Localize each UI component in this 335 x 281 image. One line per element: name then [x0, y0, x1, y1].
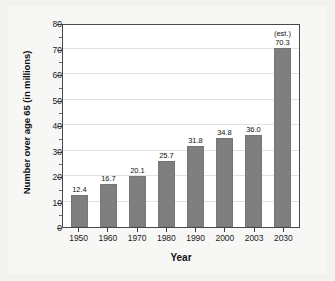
y-axis-title: Number over age 65 (in millions) — [22, 51, 33, 195]
bar-slot: 16.7 — [94, 25, 123, 227]
bar-slot: 25.7 — [152, 25, 181, 227]
bar-slot: 34.8 — [210, 25, 239, 227]
bar-value-label: 12.4 — [72, 185, 87, 194]
bar-slot: 31.8 — [181, 25, 210, 227]
x-axis-tick-label: 2030 — [269, 233, 298, 247]
x-axis-tick-mark — [78, 228, 79, 232]
bar-chart-figure: Number over age 65 (in millions) 0102030… — [0, 0, 335, 281]
bar-value-label: 70.3 — [275, 38, 290, 47]
x-axis-tick-label: 1970 — [123, 233, 152, 247]
bar-series: 12.416.720.125.731.834.836.070.3(est.) — [63, 25, 299, 227]
bar[interactable] — [216, 138, 233, 227]
bar[interactable] — [245, 135, 262, 227]
bar-value-label: 20.1 — [130, 166, 145, 175]
bar-value-label: 25.7 — [159, 151, 174, 160]
bar-value-label: 31.8 — [188, 136, 203, 145]
bar[interactable] — [100, 184, 117, 227]
bar[interactable] — [71, 195, 88, 227]
bar[interactable] — [187, 146, 204, 227]
x-axis-tick-mark — [107, 228, 108, 232]
x-axis-tick-labels: 19501960197019801990200020032030 — [62, 233, 300, 247]
x-axis-title: Year — [62, 252, 300, 263]
y-axis-title-container: Number over age 65 (in millions) — [18, 20, 36, 225]
x-axis-tick-mark — [283, 228, 284, 232]
x-axis-tick-label: 1990 — [181, 233, 210, 247]
x-axis-tick-label: 1960 — [93, 233, 122, 247]
x-axis-tick-mark — [224, 228, 225, 232]
x-axis-tick-mark — [254, 228, 255, 232]
bar-slot: 36.0 — [239, 25, 268, 227]
x-axis-tick-mark — [137, 228, 138, 232]
x-axis-tick-mark — [166, 228, 167, 232]
bar-value-label: 36.0 — [246, 125, 261, 134]
bar[interactable] — [274, 48, 291, 227]
bar-value-label: 16.7 — [101, 174, 116, 183]
bar[interactable] — [129, 176, 146, 227]
x-axis-tick-label: 2003 — [240, 233, 269, 247]
chart-screenshot: Number over age 65 (in millions) 0102030… — [0, 0, 335, 281]
bar-annotation-label: (est.) — [274, 29, 291, 38]
bar-slot: 12.4 — [65, 25, 94, 227]
plot-area: 12.416.720.125.731.834.836.070.3(est.) — [62, 24, 300, 228]
x-axis-tick-label: 1950 — [64, 233, 93, 247]
bar-slot: 70.3(est.) — [268, 25, 297, 227]
x-axis-tick-label: 2000 — [210, 233, 239, 247]
x-axis-tick-label: 1980 — [152, 233, 181, 247]
x-axis-tick-mark — [195, 228, 196, 232]
bar[interactable] — [158, 161, 175, 227]
bar-slot: 20.1 — [123, 25, 152, 227]
bar-value-label: 34.8 — [217, 128, 232, 137]
